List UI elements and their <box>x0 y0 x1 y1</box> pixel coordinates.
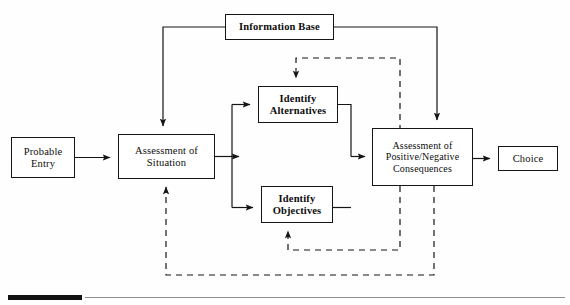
edge-alternatives-merge <box>338 105 351 157</box>
node-assessment-consequences: Assessment of Positive/Negative Conseque… <box>372 128 473 186</box>
node-information-base: Information Base <box>225 14 334 40</box>
node-identify-alternatives: Identify Alternatives <box>258 86 338 123</box>
figure-page: Probable Entry Assessment of Situation I… <box>0 0 570 305</box>
node-probable-entry-label: Probable Entry <box>22 146 65 170</box>
node-identify-objectives-label: Identify Objectives <box>271 193 324 217</box>
node-assessment-situation: Assessment of Situation <box>118 134 215 179</box>
node-information-base-label: Information Base <box>237 21 322 33</box>
edge-infobase-to-consequences <box>334 27 437 120</box>
node-choice: Choice <box>498 146 558 171</box>
node-choice-label: Choice <box>511 153 546 165</box>
footer-horizontal-rule <box>85 297 565 298</box>
flowchart-connectors <box>0 0 570 305</box>
node-assessment-situation-label: Assessment of Situation <box>133 145 200 169</box>
node-assessment-consequences-label: Assessment of Positive/Negative Conseque… <box>384 140 462 174</box>
edge-infobase-to-situation <box>163 27 225 126</box>
node-probable-entry: Probable Entry <box>11 137 75 178</box>
node-identify-alternatives-label: Identify Alternatives <box>268 93 329 117</box>
footer-black-bar <box>8 295 82 300</box>
node-identify-objectives: Identify Objectives <box>261 186 333 223</box>
